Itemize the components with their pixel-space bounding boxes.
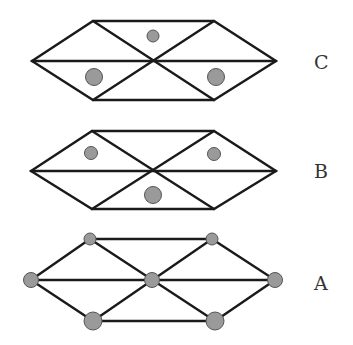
panel-a-atom-top-left	[84, 233, 96, 245]
panel-c-label: C	[314, 51, 329, 73]
panel-c-atom-lower-right	[208, 69, 225, 86]
panel-a-lattice	[24, 233, 283, 330]
diagram-canvas	[0, 0, 353, 345]
panel-c-atom-top	[147, 30, 159, 42]
panel-a-atom-center	[145, 273, 160, 288]
panel-a-atom-right	[268, 273, 283, 288]
panel-b-atom-upper-left	[85, 147, 98, 160]
panel-b-label: B	[314, 160, 328, 182]
panel-a-atom-left	[24, 273, 39, 288]
panel-a-label: A	[314, 272, 328, 294]
panel-b-atom-upper-right	[208, 148, 221, 161]
panel-b-atom-bottom	[145, 187, 162, 204]
panel-a-atom-bottom-left	[84, 312, 102, 330]
panel-c-lattice	[32, 21, 276, 100]
panel-b-lattice	[31, 131, 276, 209]
panel-c-atom-lower-left	[86, 69, 103, 86]
panel-a-atom-top-right	[206, 233, 218, 245]
panel-a-atom-bottom-right	[206, 312, 224, 330]
